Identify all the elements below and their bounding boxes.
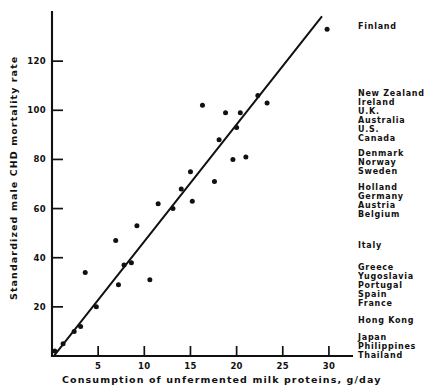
country-label-belgium: Belgium <box>358 210 400 219</box>
country-label-france: France <box>358 299 393 308</box>
country-label-canada: Canada <box>358 134 396 143</box>
country-label-u-s: U.S. <box>358 125 379 134</box>
country-label-u-k: U.K. <box>358 107 380 116</box>
country-label-norway: Norway <box>358 158 396 167</box>
country-label-ireland: Ireland <box>358 98 395 107</box>
country-label-sweden: Sweden <box>358 167 398 176</box>
country-label-denmark: Denmark <box>358 149 404 158</box>
country-label-greece: Greece <box>358 263 394 272</box>
country-label-germany: Germany <box>358 192 404 201</box>
country-label-portugal: Portugal <box>358 281 403 290</box>
country-label-holland: Holland <box>358 183 398 192</box>
country-label-new-zealand: New Zealand <box>358 89 425 98</box>
country-label-thailand: Thailand <box>358 351 403 360</box>
country-label-spain: Spain <box>358 290 387 299</box>
country-label-australia: Australia <box>358 116 405 125</box>
country-label-japan: Japan <box>358 333 387 342</box>
country-label-hong-kong: Hong Kong <box>358 316 414 325</box>
country-label-italy: Italy <box>358 241 382 250</box>
country-label-philippines: Philippines <box>358 342 416 351</box>
country-label-austria: Austria <box>358 201 396 210</box>
country-label-finland: Finland <box>358 22 397 31</box>
country-label-yugoslavia: Yugoslavia <box>358 272 414 281</box>
